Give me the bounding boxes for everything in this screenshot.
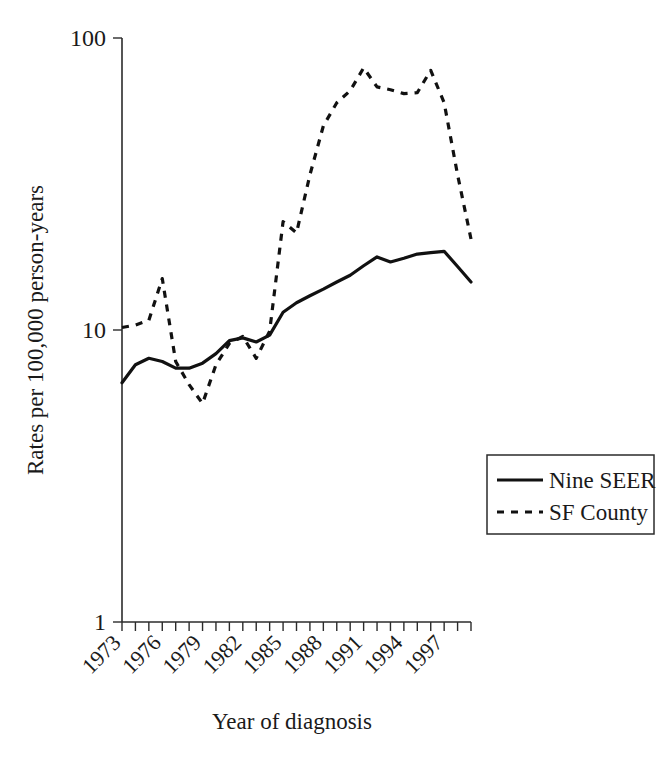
legend-label-sf-county: SF County — [549, 500, 649, 525]
line-chart-figure: 100 10 1 1973197619791982198519881991199… — [0, 0, 669, 760]
y-tick-label-100: 100 — [70, 25, 106, 51]
x-axis-title: Year of diagnosis — [212, 709, 372, 734]
legend-label-nine-seer: Nine SEER — [549, 468, 656, 493]
y-axis-title: Rates per 100,000 person-years — [23, 185, 48, 475]
legend: Nine SEER SF County — [487, 455, 656, 534]
y-tick-label-1: 1 — [94, 609, 106, 635]
y-tick-label-10: 10 — [82, 317, 106, 343]
